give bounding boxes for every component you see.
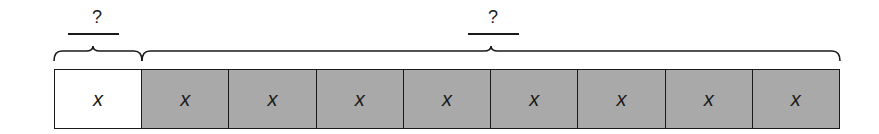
bar-cell-9: x bbox=[753, 70, 839, 128]
bar-cell-7: x bbox=[578, 70, 665, 128]
cell-label: x bbox=[529, 88, 539, 111]
bar-cell-5: x bbox=[404, 70, 491, 128]
cell-label: x bbox=[791, 88, 801, 111]
cell-label: x bbox=[704, 88, 714, 111]
bar-cell-4: x bbox=[317, 70, 404, 128]
bar-cell-3: x bbox=[229, 70, 316, 128]
bar-cell-2: x bbox=[142, 70, 229, 128]
bar-cell-1: x bbox=[55, 70, 142, 128]
tape-bar: x x x x x x x x x bbox=[54, 69, 840, 129]
left-brace-icon bbox=[54, 46, 142, 61]
bar-cell-6: x bbox=[491, 70, 578, 128]
bar-cell-8: x bbox=[666, 70, 753, 128]
cell-label: x bbox=[616, 88, 626, 111]
right-brace-icon bbox=[142, 46, 840, 61]
cell-label: x bbox=[355, 88, 365, 111]
cell-label: x bbox=[180, 88, 190, 111]
cell-label: x bbox=[93, 88, 103, 111]
cell-label: x bbox=[268, 88, 278, 111]
cell-label: x bbox=[442, 88, 452, 111]
tape-diagram: ? ? x x x x x x x x x bbox=[0, 0, 879, 134]
